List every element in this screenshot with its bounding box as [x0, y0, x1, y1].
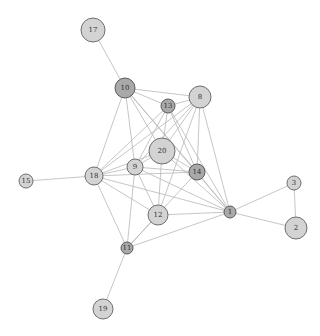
graph-svg: 1710138209141815121321119 [0, 0, 320, 336]
node-10: 10 [115, 78, 135, 98]
node-17: 17 [81, 18, 105, 42]
node-label: 2 [294, 224, 298, 232]
node-15: 15 [19, 174, 33, 188]
node-1: 1 [224, 206, 236, 218]
node-label: 10 [121, 84, 130, 92]
node-label: 11 [123, 244, 132, 252]
edges-layer [26, 30, 296, 309]
node-14: 14 [189, 164, 205, 180]
edge-1-3 [230, 183, 294, 212]
node-9: 9 [127, 159, 143, 175]
nodes-layer: 1710138209141815121321119 [19, 18, 307, 319]
node-label: 14 [193, 168, 202, 176]
edge-12-1 [158, 212, 230, 215]
node-8: 8 [189, 86, 211, 108]
edge-10-9 [125, 88, 135, 167]
node-label: 12 [154, 211, 163, 219]
node-label: 15 [22, 177, 31, 185]
node-label: 18 [90, 172, 99, 180]
node-label: 19 [99, 305, 108, 313]
network-diagram: 1710138209141815121321119 [0, 0, 320, 336]
node-20: 20 [149, 138, 175, 164]
node-11: 11 [121, 242, 133, 254]
node-3: 3 [287, 176, 301, 190]
node-label: 1 [228, 208, 232, 216]
node-label: 3 [292, 179, 296, 187]
node-label: 13 [164, 102, 173, 110]
node-2: 2 [285, 217, 307, 239]
edge-10-18 [94, 88, 125, 176]
edge-9-11 [127, 167, 135, 248]
node-13: 13 [161, 99, 175, 113]
node-label: 17 [89, 26, 98, 34]
edge-18-11 [94, 176, 127, 248]
node-12: 12 [148, 205, 168, 225]
node-label: 9 [133, 163, 137, 171]
node-19: 19 [93, 299, 113, 319]
edge-1-11 [127, 212, 230, 248]
edge-18-15 [26, 176, 94, 181]
node-label: 8 [198, 93, 202, 101]
node-label: 20 [158, 147, 167, 155]
node-18: 18 [85, 167, 103, 185]
